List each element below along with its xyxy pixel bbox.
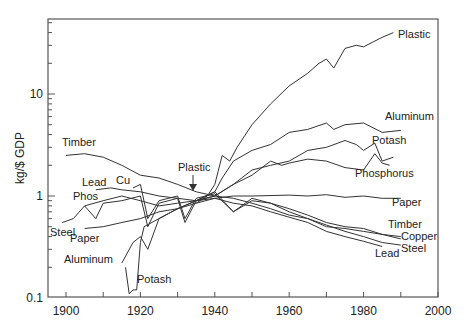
x-tick-label: 1920 xyxy=(127,304,154,318)
x-tick-label: 1980 xyxy=(350,304,377,318)
series-label: Phosphorus xyxy=(355,167,414,179)
series-label: Paper xyxy=(70,232,100,244)
y-tick-label: 1 xyxy=(36,189,43,203)
plot-series xyxy=(62,33,401,294)
series-label: Copper xyxy=(401,230,437,242)
series-label: Plastic xyxy=(398,28,431,40)
series-label: Plastic xyxy=(178,161,211,173)
series-label: Lead xyxy=(375,247,399,259)
x-tick-label: 1960 xyxy=(276,304,303,318)
series-labels: PlasticAluminumPotashPhosphorusPaperTimb… xyxy=(50,28,437,285)
series-label: Phos xyxy=(73,190,99,202)
series-line-steel xyxy=(62,192,401,245)
x-tick-label: 2000 xyxy=(425,304,452,318)
y-tick-label: 10 xyxy=(30,87,44,101)
series-line-paper xyxy=(85,195,401,229)
chart: 1900192019401960198020000.1110 PlasticAl… xyxy=(0,0,467,328)
x-tick-label: 1900 xyxy=(53,304,80,318)
series-label: Aluminum xyxy=(64,253,113,265)
x-tick-label: 1940 xyxy=(201,304,228,318)
series-label: Aluminum xyxy=(385,110,434,122)
y-axis-label: kg/$ GDP xyxy=(13,132,27,184)
series-label: Potash xyxy=(372,134,406,146)
series-label: Steel xyxy=(401,242,426,254)
series-label: Cu xyxy=(116,174,130,186)
series-line-potash xyxy=(126,141,394,294)
series-label: Timber xyxy=(62,136,96,148)
series-label: Potash xyxy=(137,273,171,285)
series-label: Lead xyxy=(82,176,106,188)
series-label: Timber xyxy=(388,218,422,230)
y-tick-label: 0.1 xyxy=(26,291,43,305)
series-line-aluminum xyxy=(122,123,401,263)
series-label: Paper xyxy=(392,196,422,208)
